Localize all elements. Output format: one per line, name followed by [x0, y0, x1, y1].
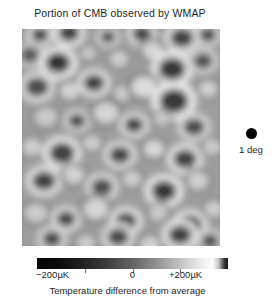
colorbar-max-label: +200µK — [169, 269, 202, 280]
colorbar — [37, 258, 228, 269]
figure-title: Portion of CMB observed by WMAP — [0, 7, 240, 19]
cmb-figure: Portion of CMB observed by WMAP — [0, 0, 275, 305]
cmb-temperature-map — [22, 29, 220, 246]
colorbar-gradient — [37, 258, 228, 269]
angular-scale-marker: 1 deg — [228, 128, 274, 155]
colorbar-caption: Temperature difference from average — [0, 285, 255, 296]
colorbar-mid-label: 0 — [0, 269, 265, 280]
angular-scale-label: 1 deg — [228, 144, 274, 155]
cmb-map-canvas — [22, 29, 220, 246]
one-degree-dot-icon — [246, 128, 257, 139]
